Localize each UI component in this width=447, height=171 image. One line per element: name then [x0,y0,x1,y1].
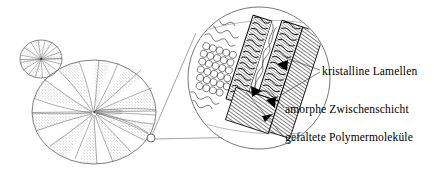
magnifier-view [182,0,331,149]
large-spherulite [32,60,156,164]
figure-root: kristalline Lamellen amorphe Zwischensch… [0,0,447,171]
label-gefaltete-polymermolekuele: gefaltete Polymermoleküle [285,131,413,143]
label-amorphe-zwischenschicht: amorphe Zwischenschicht [285,103,409,115]
large-spherulite-nucleus [93,111,95,113]
small-spherulite [20,40,62,78]
diagram-canvas [0,0,447,171]
small-spherulite-nucleus [40,58,42,60]
label-kristalline-lamellen: kristalline Lamellen [322,65,417,77]
callout-marker-circle [147,134,155,142]
